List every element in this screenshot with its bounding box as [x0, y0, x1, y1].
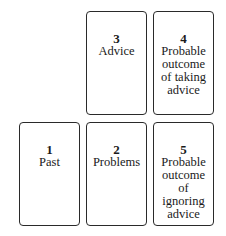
card-3-advice: 3 Advice [86, 11, 147, 115]
card-label: Problems [87, 156, 146, 169]
card-1-past: 1 Past [19, 122, 80, 226]
card-label: Probable outcome of ignoring advice [154, 156, 213, 221]
card-label: Advice [87, 45, 146, 58]
card-label: Past [20, 156, 79, 169]
card-label: Probable outcome of taking advice [154, 45, 213, 97]
card-4-taking-advice: 4 Probable outcome of taking advice [153, 11, 214, 115]
card-2-problems: 2 Problems [86, 122, 147, 226]
card-5-ignoring-advice: 5 Probable outcome of ignoring advice [153, 122, 214, 226]
